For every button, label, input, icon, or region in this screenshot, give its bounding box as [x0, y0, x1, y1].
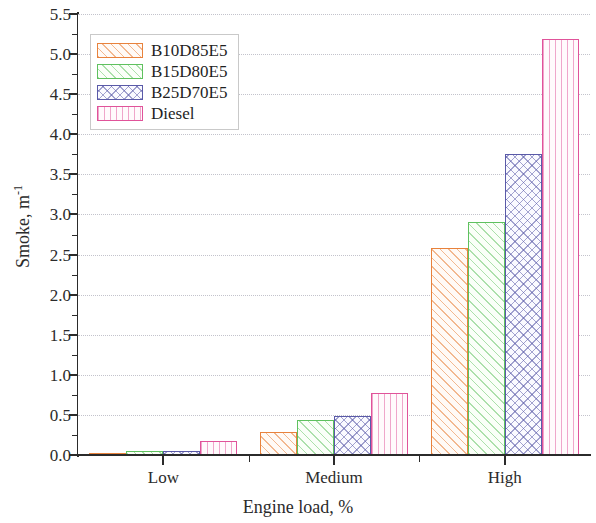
x-axis-major-tick — [333, 456, 335, 465]
legend-item-b25d70e5: B25D70E5 — [97, 82, 228, 103]
bar-high-b10d85e5 — [431, 248, 468, 455]
y-axis-major-tick — [69, 374, 78, 376]
legend-label-b15d80e5: B15D80E5 — [151, 63, 228, 80]
legend-swatch-b10d85e5 — [97, 43, 143, 58]
y-axis-tick-label: 5.5 — [50, 6, 71, 23]
y-axis-tick-label: 1.5 — [50, 326, 71, 343]
y-axis-title-text: Smoke, m — [13, 195, 33, 268]
x-axis-minor-tick — [249, 456, 250, 462]
gridline — [78, 14, 590, 15]
y-axis-major-tick — [69, 133, 78, 135]
y-axis-major-tick — [69, 294, 78, 296]
x-axis-tick-label-high: High — [488, 468, 522, 488]
y-axis-minor-tick — [72, 355, 78, 356]
y-axis-tick-label: 3.5 — [50, 166, 71, 183]
gridline — [78, 134, 590, 135]
legend: B10D85E5B15D80E5B25D70E5Diesel — [90, 34, 239, 130]
smoke-vs-engine-load-bar-chart: 0.00.51.01.52.02.53.03.54.04.55.05.5 Low… — [0, 0, 596, 523]
y-axis-tick-label: 0.0 — [50, 447, 71, 464]
x-axis-major-tick — [162, 456, 164, 465]
y-axis-major-tick — [69, 173, 78, 175]
y-axis-tick-label: 0.5 — [50, 406, 71, 423]
y-axis-major-tick — [69, 213, 78, 215]
y-axis-tick-label: 1.0 — [50, 366, 71, 383]
y-axis-title: Smoke, m-1 — [11, 127, 34, 327]
bar-high-b25d70e5 — [505, 154, 542, 455]
y-axis-minor-tick — [72, 154, 78, 155]
y-axis-tick-label: 2.0 — [50, 286, 71, 303]
y-axis-tick-label: 4.5 — [50, 86, 71, 103]
x-axis-minor-tick — [419, 456, 420, 462]
x-axis-title: Engine load, % — [0, 497, 596, 518]
legend-swatch-b25d70e5 — [97, 85, 143, 100]
x-axis-major-tick — [504, 456, 506, 465]
y-axis-major-tick — [69, 93, 78, 95]
y-axis-title-exponent: -1 — [11, 185, 25, 195]
y-axis-minor-tick — [72, 74, 78, 75]
y-axis-minor-tick — [72, 114, 78, 115]
bar-medium-b10d85e5 — [260, 432, 297, 455]
y-axis-minor-tick — [72, 275, 78, 276]
x-axis-tick-label-medium: Medium — [305, 468, 363, 488]
y-axis-minor-tick — [72, 315, 78, 316]
y-axis-minor-tick — [72, 34, 78, 35]
x-axis-ticks-group: LowMediumHigh — [78, 456, 590, 466]
y-axis-tick-label: 2.5 — [50, 246, 71, 263]
legend-item-diesel: Diesel — [97, 103, 228, 124]
legend-swatch-diesel — [97, 106, 143, 121]
legend-label-b10d85e5: B10D85E5 — [151, 42, 228, 59]
bar-low-diesel — [200, 441, 237, 455]
y-axis-major-tick — [69, 414, 78, 416]
legend-label-b25d70e5: B25D70E5 — [151, 84, 228, 101]
y-axis-major-tick — [69, 254, 78, 256]
y-axis-major-tick — [69, 53, 78, 55]
bar-medium-b15d80e5 — [297, 420, 334, 455]
bar-medium-diesel — [371, 393, 408, 455]
legend-item-b10d85e5: B10D85E5 — [97, 40, 228, 61]
y-axis-tick-label: 5.0 — [50, 46, 71, 63]
y-axis-tick-label: 3.0 — [50, 206, 71, 223]
y-axis-major-tick — [69, 13, 78, 15]
y-axis-major-tick — [69, 334, 78, 336]
legend-item-b15d80e5: B15D80E5 — [97, 61, 228, 82]
bar-medium-b25d70e5 — [334, 416, 371, 455]
bar-high-b15d80e5 — [468, 222, 505, 455]
x-axis-tick-label-low: Low — [148, 468, 179, 488]
y-axis-minor-tick — [72, 194, 78, 195]
y-axis-minor-tick — [72, 435, 78, 436]
bar-high-diesel — [542, 39, 579, 455]
legend-swatch-b15d80e5 — [97, 64, 143, 79]
legend-label-diesel: Diesel — [151, 105, 194, 122]
y-axis-tick-label: 4.0 — [50, 126, 71, 143]
y-axis-minor-tick — [72, 395, 78, 396]
y-axis-minor-tick — [72, 235, 78, 236]
